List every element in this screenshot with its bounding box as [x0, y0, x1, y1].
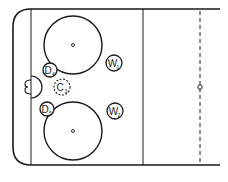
player-d5-letter: D [41, 104, 48, 115]
player-w1-sub: 1 [117, 64, 120, 70]
player-c3: C 3 [54, 79, 70, 95]
player-w1: W 1 [106, 55, 122, 71]
player-c3-letter: C [56, 82, 63, 93]
player-d5: D 5 [40, 102, 54, 116]
hockey-zone-diagram: D 4 C 3 D 5 W 1 W 2 [0, 0, 228, 182]
goal-net [25, 80, 31, 94]
rink-boundary [13, 9, 220, 165]
player-d4-letter: D [44, 65, 51, 76]
center-dot [198, 85, 202, 89]
player-w2: W 2 [107, 103, 123, 119]
player-d5-sub: 5 [49, 110, 52, 116]
upper-faceoff-dot [72, 44, 75, 47]
player-d4: D 4 [43, 63, 57, 77]
lower-faceoff-dot [72, 130, 75, 133]
player-d4-sub: 4 [52, 71, 55, 77]
goal-crease [31, 76, 42, 98]
player-w2-sub: 2 [118, 112, 121, 118]
player-c3-sub: 3 [65, 88, 68, 94]
